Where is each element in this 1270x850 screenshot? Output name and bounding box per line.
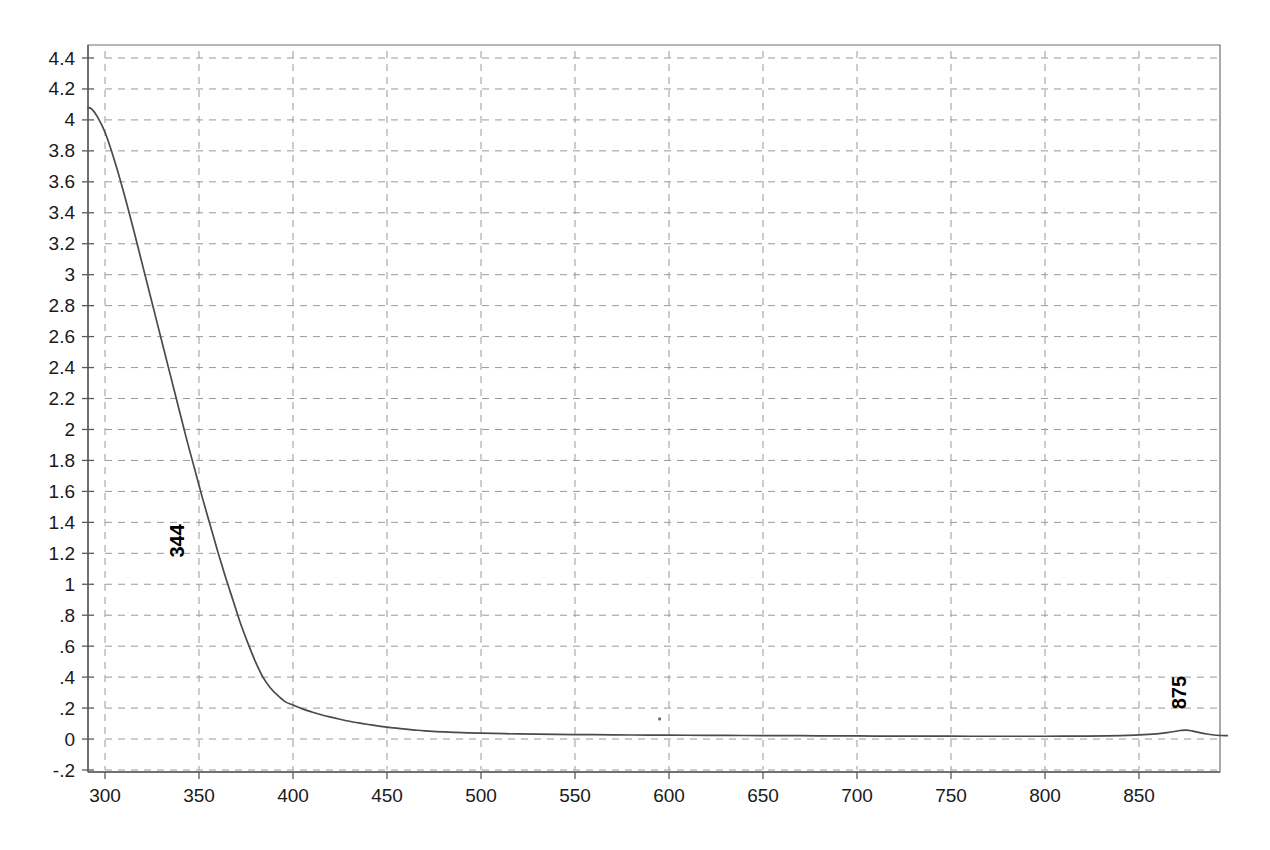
x-axis-label-350: 350: [183, 785, 215, 806]
vertical-gridlines: [105, 51, 1139, 770]
y-axis-label-2.2: 2.2: [49, 388, 75, 409]
y-axis-label--.2: -.2: [53, 760, 75, 781]
x-axis-label-600: 600: [653, 785, 685, 806]
plot-frame: [88, 45, 1220, 772]
x-axis-label-550: 550: [559, 785, 591, 806]
y-axis-label-0: 0: [64, 729, 75, 750]
y-axis-label-.6: .6: [59, 636, 75, 657]
y-axis-label-1.8: 1.8: [49, 450, 75, 471]
x-axis-tick-labels: 300350400450500550600650700750800850: [89, 785, 1155, 806]
uv-vis-spectrum-plot: 4.44.243.83.63.43.232.82.62.42.221.81.61…: [0, 0, 1270, 850]
y-axis-label-3.2: 3.2: [49, 233, 75, 254]
series-line-absorbance: [88, 108, 1227, 737]
y-axis-label-3.4: 3.4: [49, 202, 76, 223]
x-axis-label-500: 500: [465, 785, 497, 806]
y-axis-label-2.6: 2.6: [49, 326, 75, 347]
y-axis-label-.4: .4: [59, 667, 75, 688]
y-axis-label-.8: .8: [59, 605, 75, 626]
y-axis-label-.2: .2: [59, 698, 75, 719]
x-axis-label-850: 850: [1123, 785, 1155, 806]
y-axis-label-1.2: 1.2: [49, 543, 75, 564]
horizontal-gridlines: [105, 58, 1218, 770]
y-axis-label-1: 1: [64, 574, 75, 595]
x-axis-label-800: 800: [1029, 785, 1061, 806]
x-axis-label-700: 700: [841, 785, 873, 806]
y-axis-label-3.6: 3.6: [49, 171, 75, 192]
chart-container: 4.44.243.83.63.43.232.82.62.42.221.81.61…: [0, 0, 1270, 850]
y-axis-label-1.6: 1.6: [49, 481, 75, 502]
x-axis-label-650: 650: [747, 785, 779, 806]
x-axis-ticks: [105, 772, 1139, 779]
y-axis-label-1.4: 1.4: [49, 512, 76, 533]
x-axis-label-300: 300: [89, 785, 121, 806]
x-axis-label-450: 450: [371, 785, 403, 806]
plot-border: [88, 45, 1220, 772]
y-axis-label-4: 4: [64, 109, 75, 130]
x-axis-label-400: 400: [277, 785, 309, 806]
x-axis-label-750: 750: [935, 785, 967, 806]
y-axis-label-4.2: 4.2: [49, 78, 75, 99]
y-axis-label-2: 2: [64, 419, 75, 440]
peak-annotations: 344875: [166, 523, 1190, 709]
y-axis-label-3: 3: [64, 264, 75, 285]
data-series-layer: [88, 108, 1227, 737]
y-axis-label-2.8: 2.8: [49, 295, 75, 316]
y-axis-tick-labels: 4.44.243.83.63.43.232.82.62.42.221.81.61…: [49, 48, 76, 781]
peak-label-344: 344: [166, 523, 188, 557]
image-artifacts: [658, 717, 661, 720]
y-axis-label-2.4: 2.4: [49, 357, 76, 378]
speck: [658, 717, 661, 720]
peak-label-875: 875: [1168, 676, 1190, 709]
y-axis-label-4.4: 4.4: [49, 48, 76, 69]
y-axis-label-3.8: 3.8: [49, 140, 75, 161]
